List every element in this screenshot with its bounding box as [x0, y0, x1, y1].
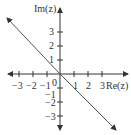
- y-axis-label: Im(z): [34, 3, 56, 15]
- y-tick-label: −3: [45, 111, 56, 122]
- x-tick-label: 3: [100, 80, 105, 91]
- y-tick-label: 2: [49, 40, 54, 51]
- y-tick-label: 1: [49, 54, 54, 65]
- x-tick-label: 1: [73, 80, 78, 91]
- x-tick-label: 2: [86, 80, 91, 91]
- x-tick-label: −3: [12, 80, 23, 91]
- complex-plane-chart: Im(z) Re(z) −3 −2 −1 0 1 2 3 3 2 1 −1 −2…: [0, 0, 131, 135]
- x-tick-label: −2: [26, 80, 37, 91]
- origin-label: 0: [52, 77, 57, 88]
- x-axis-label: Re(z): [106, 80, 128, 92]
- y-tick-label: 3: [49, 26, 54, 37]
- y-tick-label: −2: [45, 97, 56, 108]
